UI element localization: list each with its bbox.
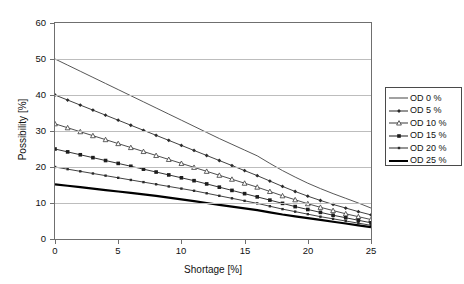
x-tick-mark xyxy=(308,240,309,244)
series-3 xyxy=(55,147,371,224)
legend-item[interactable]: OD 0 % xyxy=(389,92,461,104)
legend-label: OD 20 % xyxy=(408,144,447,153)
gridline xyxy=(55,131,371,132)
legend-item[interactable]: OD 25 % xyxy=(389,155,461,167)
y-tick-label: 60 xyxy=(12,18,46,28)
legend-label: OD 10 % xyxy=(408,119,447,128)
y-tick-mark xyxy=(50,167,54,168)
gridline xyxy=(55,203,371,204)
plot-area xyxy=(54,22,372,240)
legend-swatch-icon xyxy=(389,105,408,117)
x-tick-mark xyxy=(118,240,119,244)
y-axis-title: Possibility [%] xyxy=(17,70,28,190)
x-tick-label: 20 xyxy=(293,246,323,256)
legend-label: OD 25 % xyxy=(408,156,447,165)
x-tick-mark xyxy=(245,240,246,244)
x-tick-label: 0 xyxy=(40,246,70,256)
x-tick-label: 25 xyxy=(356,246,386,256)
series-1 xyxy=(55,93,371,217)
gridline xyxy=(55,95,371,96)
chart-container: 0102030405060 0510152025 Shortage [%] Po… xyxy=(0,0,464,284)
gridline xyxy=(55,59,371,60)
x-tick-mark xyxy=(181,240,182,244)
y-tick-mark xyxy=(50,239,54,240)
legend-swatch-icon xyxy=(389,117,408,129)
legend: OD 0 %OD 5 %OD 10 %OD 15 %OD 20 %OD 25 % xyxy=(385,87,462,166)
series-5 xyxy=(55,184,371,227)
legend-item[interactable]: OD 15 % xyxy=(389,130,461,142)
legend-swatch-icon xyxy=(389,142,408,154)
legend-item[interactable]: OD 10 % xyxy=(389,117,461,129)
x-axis-title: Shortage [%] xyxy=(54,264,372,275)
series-4 xyxy=(55,166,371,227)
legend-item[interactable]: OD 20 % xyxy=(389,142,461,154)
legend-label: OD 5 % xyxy=(408,106,442,115)
x-tick-mark xyxy=(55,240,56,244)
series-2 xyxy=(55,121,371,221)
y-tick-mark xyxy=(50,23,54,24)
x-tick-mark xyxy=(371,240,372,244)
y-tick-mark xyxy=(50,203,54,204)
y-tick-mark xyxy=(50,59,54,60)
legend-label: OD 0 % xyxy=(408,94,442,103)
legend-label: OD 15 % xyxy=(408,131,447,140)
legend-swatch-icon xyxy=(389,92,408,104)
y-tick-mark xyxy=(50,131,54,132)
y-tick-label: 0 xyxy=(12,234,46,244)
x-tick-label: 5 xyxy=(103,246,133,256)
y-tick-label: 10 xyxy=(12,198,46,208)
y-tick-label: 50 xyxy=(12,54,46,64)
y-tick-mark xyxy=(50,95,54,96)
legend-swatch-icon xyxy=(389,130,408,142)
legend-swatch-icon xyxy=(389,155,408,167)
gridline xyxy=(55,167,371,168)
x-tick-label: 10 xyxy=(166,246,196,256)
legend-item[interactable]: OD 5 % xyxy=(389,105,461,117)
x-tick-label: 15 xyxy=(230,246,260,256)
